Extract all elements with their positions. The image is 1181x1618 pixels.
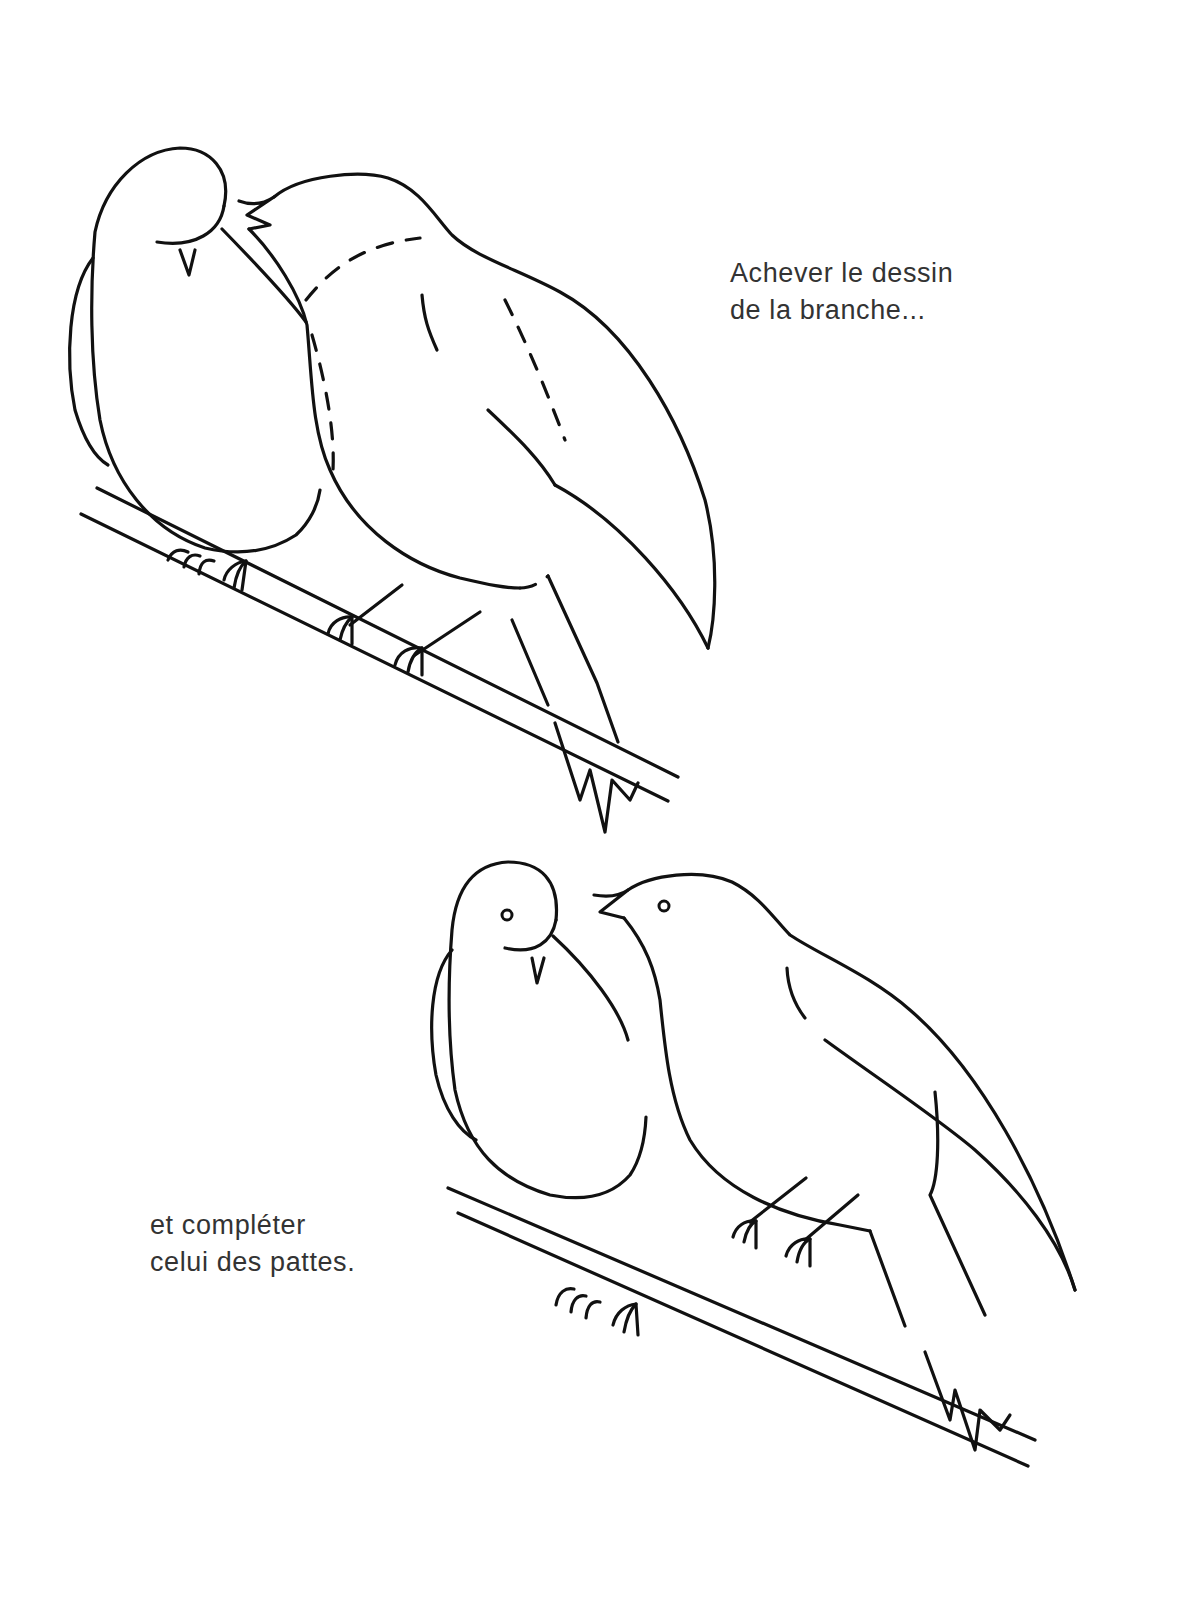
caption-top-line1: Achever le dessin bbox=[730, 255, 953, 292]
eye-icon bbox=[502, 910, 512, 920]
worksheet-page: Achever le dessin de la branche... et co… bbox=[0, 0, 1181, 1618]
caption-bottom-line1: et compléter bbox=[150, 1207, 355, 1244]
instruction-caption-bottom: et compléter celui des pattes. bbox=[150, 1207, 355, 1281]
caption-top-line2: de la branche... bbox=[730, 292, 953, 329]
bottom-left-bird bbox=[432, 862, 646, 1198]
caption-bottom-line2: celui des pattes. bbox=[150, 1244, 355, 1281]
instruction-caption-top: Achever le dessin de la branche... bbox=[730, 255, 953, 329]
bottom-birds-illustration bbox=[0, 0, 1181, 1618]
eye-icon bbox=[659, 901, 669, 911]
bottom-feet bbox=[556, 1178, 858, 1335]
bottom-right-bird bbox=[594, 874, 1075, 1450]
